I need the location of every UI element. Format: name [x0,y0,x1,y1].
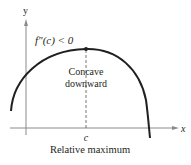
relative-maximum-point [84,47,88,51]
function-curve [11,49,150,138]
x-axis-label: x [180,123,186,134]
y-axis-label: y [23,5,28,16]
concavity-label-line2: downward [65,78,107,89]
point-c-label: c [84,132,89,143]
y-axis-arrow-icon [24,19,28,26]
concavity-diagram: y x f″(c) < 0 Concave downward c Relativ… [0,0,191,165]
concavity-label-line1: Concave [69,66,105,77]
x-axis-arrow-icon [172,126,179,130]
caption-relative-maximum: Relative maximum [50,144,130,155]
second-derivative-label: f″(c) < 0 [35,34,74,47]
